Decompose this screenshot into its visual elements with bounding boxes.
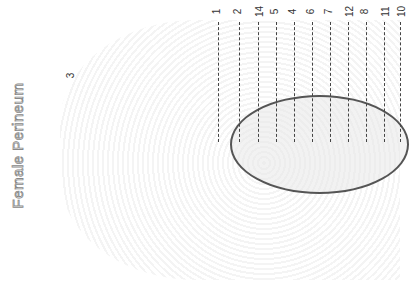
callout-leader-line (312, 22, 313, 142)
figure-outline (230, 95, 409, 194)
callout-leader-line (348, 22, 349, 142)
callout-label: 3 (65, 73, 76, 79)
callout-leader-line (366, 22, 367, 142)
callout-label: 12 (344, 6, 355, 17)
callout-label: 8 (359, 9, 370, 15)
callout-leader-line (218, 22, 219, 142)
callout-label: 1 (211, 9, 222, 15)
callout-label: 11 (380, 6, 391, 16)
callout-leader-line (276, 22, 277, 142)
callout-leader-line (384, 22, 385, 142)
callout-label: 10 (396, 6, 407, 17)
callout-leader-line (258, 22, 259, 142)
callout-label: 2 (232, 9, 243, 15)
callout-label: 7 (323, 9, 334, 15)
callout-leader-line (239, 22, 240, 142)
callout-label: 4 (287, 9, 298, 15)
callout-leader-line (330, 22, 331, 142)
callout-leader-line (400, 22, 401, 142)
diagram-title: Female Perineum (6, 60, 30, 230)
diagram-title-text: Female Perineum (10, 82, 27, 208)
callout-leader-line (294, 22, 295, 142)
callout-label: 14 (254, 6, 265, 17)
callout-label: 5 (269, 9, 280, 15)
callout-label: 6 (305, 9, 316, 15)
